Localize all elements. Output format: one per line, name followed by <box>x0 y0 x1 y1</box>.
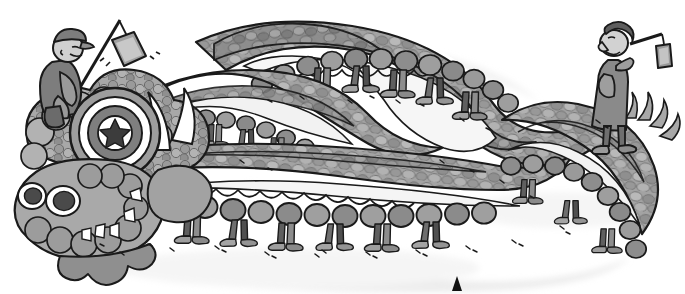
woman-shoe-right <box>618 145 636 153</box>
woman-arm-down <box>599 74 615 97</box>
man-legs <box>44 106 64 128</box>
woman-leg-right <box>618 126 625 146</box>
dragon-neck-fur <box>148 166 212 222</box>
woman-leg-left <box>603 126 611 146</box>
illustration-canvas: Cartoon line illustration of a long serp… <box>0 0 685 294</box>
woman-shoe-left <box>592 146 609 154</box>
hanging-pouch <box>656 44 672 68</box>
dragon-dance-illustration <box>0 0 685 294</box>
